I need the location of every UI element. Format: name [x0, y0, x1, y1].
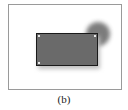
corner-marker-top-right [94, 35, 96, 37]
gray-rectangle [36, 33, 98, 66]
corner-marker-bottom-left [38, 62, 40, 64]
corner-marker-top-left [38, 35, 40, 37]
figure-caption: (b) [0, 92, 128, 106]
